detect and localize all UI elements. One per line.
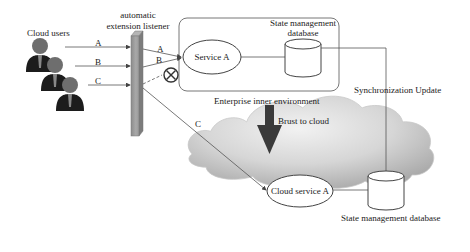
request-a-label: A: [95, 38, 102, 48]
listener-label-line1: automatic: [106, 10, 170, 20]
route-a-label: A: [157, 44, 164, 54]
blocked-route-line: [143, 75, 162, 84]
route-b-label: B: [156, 55, 162, 65]
listener-bar: [131, 31, 143, 136]
cloud-db-label: State management database: [341, 213, 440, 223]
burst-to-cloud-label: Brust to cloud: [278, 116, 329, 126]
cloud-users-label: Cloud users: [27, 28, 70, 38]
sync-update-label: Synchronization Update: [354, 85, 441, 95]
listener-label-line2: extension listener: [100, 21, 176, 31]
cloud-database-icon: [368, 171, 404, 210]
service-a-label: Service A: [182, 52, 242, 62]
circle-x-icon: [164, 68, 178, 82]
route-c-label: C: [195, 119, 201, 129]
enterprise-database-icon: [285, 39, 321, 77]
cloud-users-icon: [26, 38, 84, 111]
request-c-label: C: [95, 76, 101, 86]
cloud-service-a-label: Cloud service A: [266, 186, 334, 196]
enterprise-environment-label: Enterprise inner environment: [214, 96, 319, 106]
enterprise-db-label-line1: State management: [263, 18, 343, 28]
request-b-label: B: [95, 57, 101, 67]
enterprise-db-label-line2: database: [263, 28, 343, 38]
